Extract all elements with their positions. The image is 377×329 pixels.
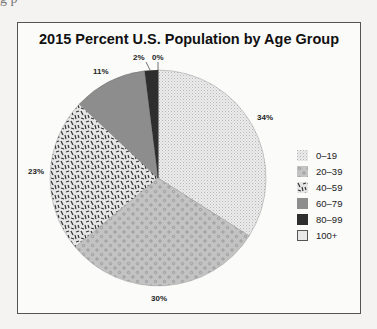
legend-item-100-plus: 100+ xyxy=(297,227,342,243)
label-60-79: 11% xyxy=(93,67,109,76)
empty-swatch-icon xyxy=(297,230,308,241)
label-20-39: 30% xyxy=(151,294,167,303)
dots-pattern-swatch-icon xyxy=(297,150,308,161)
legend-item-0-19: 0–19 xyxy=(297,147,342,163)
label-100-plus: 0% xyxy=(152,53,164,62)
label-0-19: 34% xyxy=(257,113,273,122)
legend-item-20-39: 20–39 xyxy=(297,163,342,179)
legend-item-40-59: 40–59 xyxy=(297,179,342,195)
gray-swatch-icon xyxy=(297,198,308,209)
circles-pattern-swatch-icon xyxy=(297,166,308,177)
legend: 0–19 20–39 40–59 60–79 80–99 100+ xyxy=(297,147,342,243)
legend-item-80-99: 80–99 xyxy=(297,211,342,227)
black-swatch-icon xyxy=(297,214,308,225)
label-80-99: 2% xyxy=(133,53,145,62)
label-40-59: 23% xyxy=(28,167,44,176)
legend-item-60-79: 60–79 xyxy=(297,195,342,211)
dash-pattern-swatch-icon xyxy=(297,182,308,193)
